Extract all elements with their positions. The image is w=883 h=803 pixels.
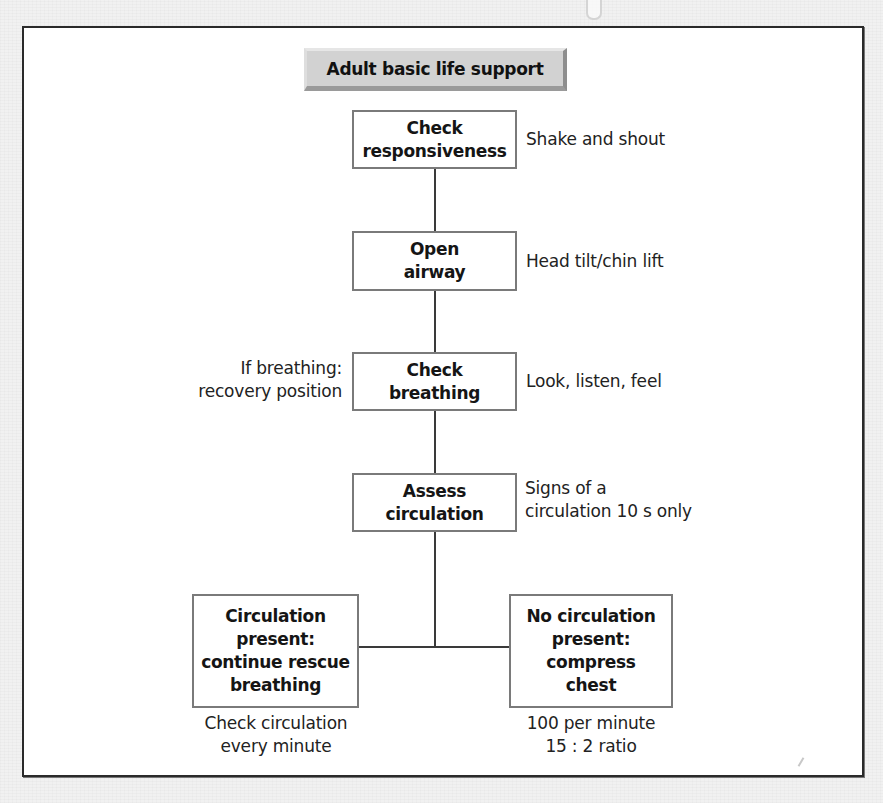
note-line: 15 : 2 ratio	[491, 735, 691, 758]
step-open-airway: Open airway	[352, 231, 517, 291]
step-label-line: circulation	[385, 503, 483, 526]
note-look-listen-feel: Look, listen, feel	[526, 370, 662, 393]
step-label-line: airway	[404, 261, 466, 284]
branch-circulation-present: Circulation present: continue rescue bre…	[192, 594, 359, 708]
note-line: Head tilt/chin lift	[526, 250, 663, 273]
branch-label-line: present:	[552, 628, 630, 651]
step-label-line: Check	[407, 359, 463, 382]
step-assess-circulation: Assess circulation	[352, 473, 517, 532]
scan-artifact	[586, 0, 602, 20]
step-label-line: Check	[407, 117, 463, 140]
diagram-title: Adult basic life support	[304, 48, 567, 91]
note-line: Look, listen, feel	[526, 370, 662, 393]
branch-label-line: continue rescue	[201, 651, 350, 674]
note-line: Signs of a	[525, 477, 692, 500]
branch-connector	[358, 646, 509, 648]
connector-3-4	[434, 410, 436, 473]
note-line: 100 per minute	[491, 712, 691, 735]
branch-label-line: breathing	[230, 674, 321, 697]
branch-label-line: No circulation	[526, 605, 655, 628]
step-label-line: breathing	[389, 382, 480, 405]
note-line: recovery position	[198, 380, 342, 403]
note-line: every minute	[176, 735, 376, 758]
step-label-line: responsiveness	[362, 140, 506, 163]
note-line: Shake and shout	[526, 128, 665, 151]
note-shake-and-shout: Shake and shout	[526, 128, 665, 151]
branch-label-line: chest	[566, 674, 616, 697]
branch-label-line: compress	[546, 651, 635, 674]
step-check-responsiveness: Check responsiveness	[352, 110, 517, 169]
connector-2-3	[434, 290, 436, 352]
note-check-circulation: Check circulation every minute	[176, 712, 376, 758]
connector-4-branch	[434, 531, 436, 648]
step-check-breathing: Check breathing	[352, 352, 517, 411]
note-line: Check circulation	[176, 712, 376, 735]
branch-label-line: present:	[236, 628, 314, 651]
branch-label-line: Circulation	[225, 605, 326, 628]
note-line: circulation 10 s only	[525, 500, 692, 523]
diagram-title-text: Adult basic life support	[327, 59, 544, 79]
note-signs-of-circulation: Signs of a circulation 10 s only	[525, 477, 692, 523]
step-label-line: Open	[410, 238, 459, 261]
note-recovery-position: If breathing: recovery position	[198, 357, 342, 403]
note-compression-rate: 100 per minute 15 : 2 ratio	[491, 712, 691, 758]
note-head-tilt: Head tilt/chin lift	[526, 250, 663, 273]
connector-1-2	[434, 168, 436, 232]
step-label-line: Assess	[403, 480, 466, 503]
note-line: If breathing:	[198, 357, 342, 380]
branch-no-circulation: No circulation present: compress chest	[509, 594, 673, 708]
